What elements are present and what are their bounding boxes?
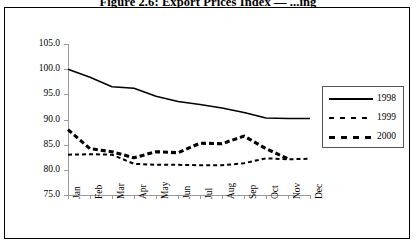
legend-label: 1998 [377,92,396,105]
series-line-2000 [68,130,288,159]
legend-item-1999: 1999 [329,111,401,125]
series-line-1999 [68,154,310,165]
legend-label: 1999 [377,111,396,124]
legend-swatch-solid-icon [329,98,373,100]
legend-swatch-dashed-thick-icon [329,136,373,139]
legend: 1998 1999 2000 [322,86,404,148]
legend-swatch-dashed-icon [329,117,373,119]
legend-item-2000: 2000 [329,130,401,144]
series-line-1998 [68,69,310,118]
legend-label: 2000 [377,130,396,143]
legend-item-1998: 1998 [329,92,401,106]
